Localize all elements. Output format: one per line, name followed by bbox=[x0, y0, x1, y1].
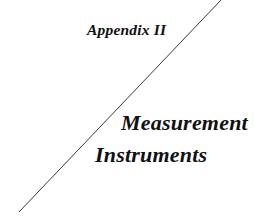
subject-title-line-2: Instruments bbox=[95, 142, 207, 168]
appendix-label: Appendix II bbox=[87, 20, 166, 39]
subject-title-line-1: Measurement bbox=[121, 110, 248, 136]
appendix-title-page: Appendix II Measurement Instruments bbox=[0, 0, 255, 223]
